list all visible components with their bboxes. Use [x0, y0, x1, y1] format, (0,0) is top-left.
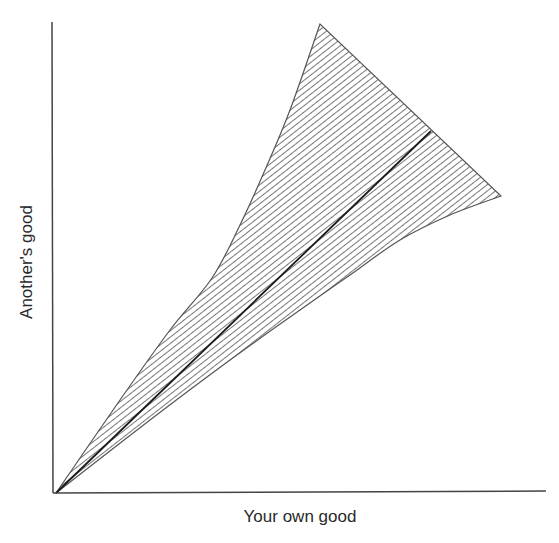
y-axis-label: Another's good	[17, 205, 37, 319]
x-axis-label: Your own good	[0, 507, 559, 527]
chart-canvas	[0, 0, 559, 543]
center-line	[56, 131, 431, 493]
y-axis	[52, 22, 53, 493]
x-axis	[53, 491, 546, 493]
hatched-fan-region	[56, 24, 501, 493]
